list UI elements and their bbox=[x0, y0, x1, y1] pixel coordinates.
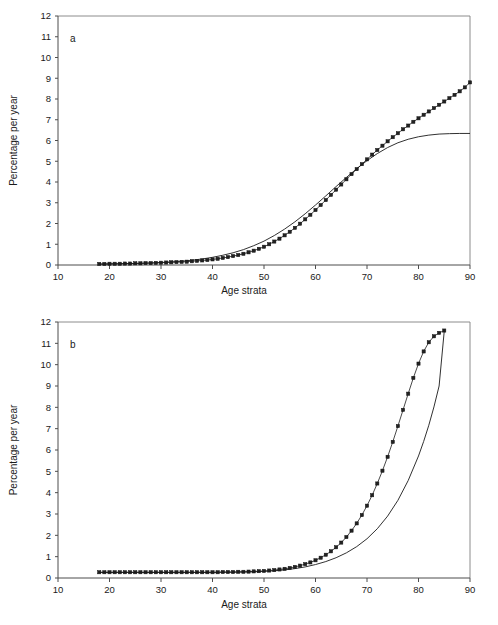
series-fitted-line bbox=[99, 133, 470, 264]
data-point-marker bbox=[268, 243, 271, 246]
data-point-marker bbox=[422, 350, 425, 353]
data-point-marker bbox=[355, 522, 358, 525]
series-observed-line bbox=[99, 331, 444, 573]
chart-panel-b: 0123456789101112102030405060708090Age st… bbox=[0, 305, 498, 625]
data-point-marker bbox=[232, 254, 235, 257]
y-axis-title: Percentage per year bbox=[8, 95, 19, 186]
data-point-marker bbox=[422, 113, 425, 116]
data-point-marker bbox=[304, 563, 307, 566]
data-point-marker bbox=[278, 237, 281, 240]
series-fitted-line bbox=[99, 331, 444, 572]
y-tick-label: 0 bbox=[46, 259, 51, 270]
y-tick-label: 5 bbox=[46, 156, 51, 167]
data-point-marker bbox=[211, 258, 214, 261]
y-tick-label: 12 bbox=[40, 316, 51, 327]
data-point-marker bbox=[247, 251, 250, 254]
x-tick-label: 40 bbox=[207, 271, 218, 282]
data-point-marker bbox=[319, 203, 322, 206]
data-point-marker bbox=[412, 376, 415, 379]
x-tick-label: 20 bbox=[104, 584, 115, 595]
x-tick-label: 10 bbox=[53, 584, 64, 595]
data-point-marker bbox=[427, 341, 430, 344]
data-point-marker bbox=[288, 230, 291, 233]
y-axis-title: Percentage per year bbox=[8, 404, 19, 495]
data-point-marker bbox=[221, 256, 224, 259]
x-tick-label: 60 bbox=[310, 584, 321, 595]
data-point-marker bbox=[412, 120, 415, 123]
data-point-marker bbox=[329, 193, 332, 196]
y-tick-label: 9 bbox=[46, 73, 51, 84]
data-point-marker bbox=[252, 249, 255, 252]
y-tick-label: 3 bbox=[46, 197, 51, 208]
plot-frame bbox=[58, 16, 470, 265]
data-point-marker bbox=[262, 245, 265, 248]
data-point-marker bbox=[453, 93, 456, 96]
data-point-marker bbox=[283, 234, 286, 237]
x-tick-label: 70 bbox=[362, 584, 373, 595]
data-point-marker bbox=[242, 252, 245, 255]
y-tick-label: 10 bbox=[40, 52, 51, 63]
data-point-marker bbox=[335, 546, 338, 549]
y-tick-label: 7 bbox=[46, 423, 51, 434]
y-tick-label: 8 bbox=[46, 402, 51, 413]
data-point-marker bbox=[309, 561, 312, 564]
data-point-marker bbox=[401, 128, 404, 131]
x-tick-label: 60 bbox=[310, 271, 321, 282]
data-point-marker bbox=[324, 198, 327, 201]
data-point-marker bbox=[304, 218, 307, 221]
data-point-marker bbox=[432, 335, 435, 338]
y-tick-label: 7 bbox=[46, 114, 51, 125]
y-tick-label: 11 bbox=[41, 31, 51, 42]
data-point-marker bbox=[314, 208, 317, 211]
y-tick-label: 6 bbox=[46, 444, 51, 455]
y-tick-label: 8 bbox=[46, 93, 51, 104]
x-tick-label: 90 bbox=[465, 584, 476, 595]
data-point-marker bbox=[381, 144, 384, 147]
data-point-marker bbox=[386, 140, 389, 143]
x-tick-label: 50 bbox=[259, 584, 270, 595]
y-tick-label: 10 bbox=[40, 359, 51, 370]
x-tick-label: 90 bbox=[465, 271, 476, 282]
chart-panel-a: 0123456789101112102030405060708090Age st… bbox=[0, 0, 498, 300]
data-point-marker bbox=[365, 504, 368, 507]
data-point-marker bbox=[386, 455, 389, 458]
y-tick-label: 3 bbox=[46, 508, 51, 519]
plot-axes bbox=[58, 16, 470, 265]
y-tick-label: 6 bbox=[46, 135, 51, 146]
figure-sheet: 0123456789101112102030405060708090Age st… bbox=[0, 0, 498, 625]
plot-axes bbox=[58, 322, 470, 578]
data-point-marker bbox=[391, 440, 394, 443]
data-point-marker bbox=[309, 213, 312, 216]
data-point-marker bbox=[360, 513, 363, 516]
data-point-marker bbox=[371, 494, 374, 497]
data-point-marker bbox=[298, 564, 301, 567]
data-point-marker bbox=[407, 392, 410, 395]
data-point-marker bbox=[391, 136, 394, 139]
y-tick-label: 2 bbox=[46, 530, 51, 541]
panel-letter: a bbox=[70, 33, 76, 44]
data-point-marker bbox=[396, 425, 399, 428]
data-point-marker bbox=[376, 148, 379, 151]
y-tick-label: 4 bbox=[46, 487, 51, 498]
data-point-marker bbox=[345, 535, 348, 538]
x-tick-label: 80 bbox=[413, 271, 424, 282]
data-point-marker bbox=[340, 541, 343, 544]
data-point-marker bbox=[443, 100, 446, 103]
data-point-marker bbox=[468, 81, 471, 84]
x-axis-title: Age strata bbox=[221, 599, 267, 610]
y-tick-label: 9 bbox=[46, 380, 51, 391]
x-tick-label: 30 bbox=[156, 584, 167, 595]
data-point-marker bbox=[417, 117, 420, 120]
data-point-marker bbox=[335, 188, 338, 191]
data-point-marker bbox=[216, 257, 219, 260]
data-point-marker bbox=[273, 240, 276, 243]
data-point-marker bbox=[226, 256, 229, 259]
data-point-marker bbox=[381, 469, 384, 472]
x-tick-label: 50 bbox=[259, 271, 270, 282]
chart-a-canvas: 0123456789101112102030405060708090Age st… bbox=[0, 0, 498, 300]
x-tick-label: 40 bbox=[207, 584, 218, 595]
y-tick-label: 2 bbox=[46, 218, 51, 229]
data-point-marker bbox=[257, 247, 260, 250]
data-point-marker bbox=[175, 261, 178, 264]
data-point-marker bbox=[448, 97, 451, 100]
